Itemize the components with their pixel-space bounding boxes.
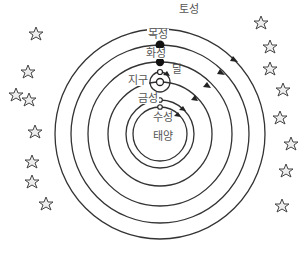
- star-icon: [284, 137, 298, 150]
- star-icon: [273, 111, 287, 124]
- star-icon: [263, 40, 277, 53]
- star-icon: [28, 125, 42, 138]
- mercury-planet: [158, 105, 163, 110]
- heliocentric-diagram: 토성 목성 화성 달 지구 금성 수성 태양: [0, 0, 305, 260]
- star-icon: [29, 27, 43, 40]
- star-icon: [39, 197, 53, 210]
- star-icon: [263, 62, 277, 75]
- star-icon: [279, 164, 293, 177]
- star-icon: [21, 65, 35, 78]
- mercury-direction-arrow-icon: [174, 112, 181, 117]
- star-icon: [22, 93, 36, 106]
- venus-label: 금성: [137, 93, 159, 104]
- star-icon: [25, 175, 39, 188]
- mercury-label: 수성: [152, 112, 174, 123]
- moon-body: [158, 70, 163, 75]
- earth-planet: [157, 79, 164, 86]
- earth-label: 지구: [127, 75, 149, 86]
- saturn-label: 토성: [178, 4, 200, 15]
- star-icon: [276, 83, 290, 96]
- sun-label: 태양: [152, 131, 174, 142]
- star-icon: [9, 88, 23, 101]
- mars-label: 화성: [145, 48, 167, 59]
- jupiter-label: 목성: [147, 29, 169, 40]
- star-icon: [25, 155, 39, 168]
- moon-label: 달: [171, 64, 183, 75]
- star-icon: [275, 199, 289, 212]
- star-icon: [254, 16, 268, 29]
